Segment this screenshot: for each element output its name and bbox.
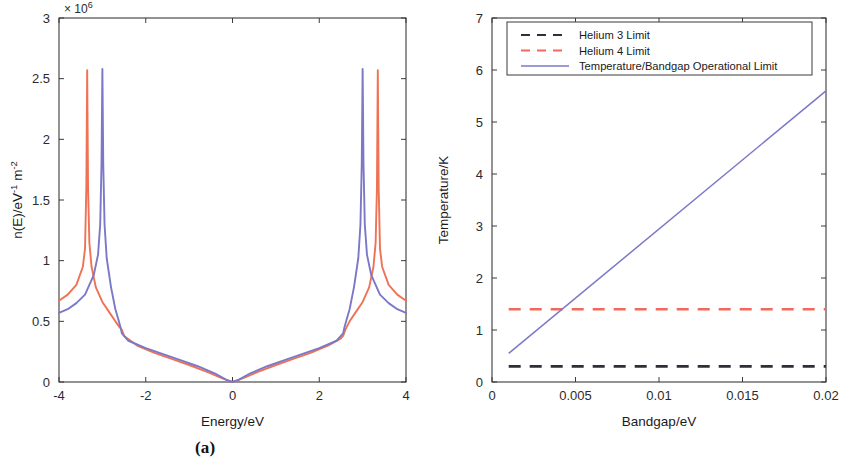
y-tick-label-a: 1.5 [32,193,50,208]
panel-b: 00.0050.010.0150.0201234567Bandgap/eVTem… [420,0,841,471]
x-axis-title-a: Energy/eV [201,414,264,429]
x-tick-label-b: 0.02 [813,388,838,403]
y-tick-label-b: 2 [476,271,483,286]
y-tick-label-b: 7 [476,11,483,26]
y-tick-label-a: 0.5 [32,314,50,329]
y-tick-label-a: 1 [43,253,50,268]
x-tick-label-a: -4 [53,388,65,403]
x-tick-label-a: 0 [229,388,236,403]
x-axis-title-b: Bandgap/eV [622,414,696,429]
figure-root: -4-202400.511.522.53× 106Energy/eVn(E)/e… [0,0,841,471]
y-axis-exponent-label: × 106 [64,0,93,16]
plot-frame-a [59,18,406,382]
x-tick-label-b: 0.01 [646,388,671,403]
panel-a: -4-202400.511.522.53× 106Energy/eVn(E)/e… [0,0,420,471]
subfigure-caption-a: (a) [195,438,215,458]
y-tick-label-b: 3 [476,219,483,234]
x-tick-label-b: 0 [488,388,495,403]
x-tick-label-a: 4 [402,388,409,403]
y-tick-label-a: 2.5 [32,71,50,86]
y-tick-label-b: 1 [476,323,483,338]
y-tick-label-b: 5 [476,115,483,130]
plot-b-svg: 00.0050.010.0150.0201234567Bandgap/eVTem… [420,0,841,471]
y-tick-label-b: 0 [476,375,483,390]
y-axis-title-a: n(E)/eV-1 m-2 [8,161,25,239]
y-tick-label-a: 3 [43,11,50,26]
x-tick-label-b: 0.005 [559,388,592,403]
legend-label-1: Helium 4 Limit [579,45,651,57]
y-tick-label-a: 0 [43,375,50,390]
legend-label-2: Temperature/Bandgap Operational Limit [579,60,778,72]
x-tick-label-b: 0.015 [726,388,759,403]
y-tick-label-b: 6 [476,63,483,78]
x-tick-label-a: -2 [140,388,152,403]
y-tick-label-a: 2 [43,132,50,147]
x-tick-label-a: 2 [316,388,323,403]
legend-label-0: Helium 3 Limit [579,29,651,41]
y-tick-label-b: 4 [476,167,483,182]
y-axis-title-b: Temperature/K [436,156,451,245]
plot-a-svg: -4-202400.511.522.53× 106Energy/eVn(E)/e… [0,0,420,471]
